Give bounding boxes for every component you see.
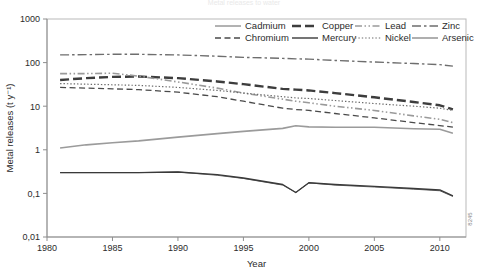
metal-releases-line-chart: 10001001010,10,0119801985199019952000200… (0, 0, 489, 275)
x-axis-tick-label: 2010 (430, 243, 450, 253)
legend-label-mercury: Mercury (322, 32, 357, 43)
legend-item-lead: Lead (355, 20, 406, 31)
x-axis-tick-label: 1995 (233, 243, 253, 253)
series-line-nickel (60, 84, 453, 111)
legend-label-lead: Lead (385, 20, 406, 31)
legend-item-mercury: Mercury (292, 32, 357, 43)
y-axis-tick-label: 10 (30, 102, 40, 112)
y-axis-tick-label: 1 (35, 145, 40, 155)
series-line-zinc (60, 54, 453, 66)
legend-label-copper: Copper (322, 20, 353, 31)
legend-item-arsenic: Arsenic (412, 32, 474, 43)
chart-figure: 10001001010,10,0119801985199019952000200… (0, 0, 489, 275)
legend-item-chromium: Chromium (215, 32, 289, 43)
series-line-chromium (60, 87, 453, 127)
x-axis-tick-label: 1980 (37, 243, 57, 253)
legend-label-chromium: Chromium (245, 32, 289, 43)
series-line-copper (60, 77, 453, 110)
legend-item-zinc: Zinc (412, 20, 460, 31)
legend-label-arsenic: Arsenic (442, 32, 474, 43)
legend-label-nickel: Nickel (385, 32, 411, 43)
figure-source-code: 8245 (467, 212, 473, 226)
x-axis-tick-label: 2005 (364, 243, 384, 253)
legend-item-cadmium: Cadmium (215, 20, 286, 31)
y-axis-tick-label: 100 (25, 58, 40, 68)
legend-item-nickel: Nickel (355, 32, 411, 43)
x-axis-tick-label: 1985 (102, 243, 122, 253)
x-axis-tick-label: 2000 (299, 243, 319, 253)
y-axis-title: Metal releases (t y⁻¹) (4, 84, 15, 173)
series-line-mercury (60, 172, 453, 196)
series-line-cadmium (60, 172, 453, 197)
x-axis-tick-label: 1990 (168, 243, 188, 253)
series-line-arsenic (60, 126, 453, 148)
legend-item-copper: Copper (292, 20, 353, 31)
legend-label-cadmium: Cadmium (245, 20, 286, 31)
legend-label-zinc: Zinc (442, 20, 460, 31)
y-axis-tick-label: 0,1 (27, 189, 40, 199)
y-axis-tick-label: 0,01 (22, 232, 40, 242)
y-axis-tick-label: 1000 (20, 14, 40, 24)
x-axis-title: Year (247, 258, 266, 269)
series-line-lead (60, 73, 453, 122)
figure-ghost-title: Metal releases to water (208, 0, 281, 6)
